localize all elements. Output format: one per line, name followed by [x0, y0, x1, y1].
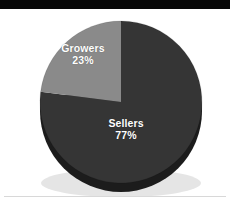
- pie-label-growers: Growers 23%: [47, 42, 119, 67]
- pie-chart-figure: Growers 23% Sellers 77%: [0, 0, 230, 204]
- bottom-divider-rule: [4, 196, 226, 197]
- top-black-band: [0, 0, 230, 9]
- pie-label-sellers: Sellers 77%: [90, 117, 162, 142]
- chart-plot-area: Growers 23% Sellers 77%: [0, 9, 230, 196]
- pie-label-growers-value: 23%: [47, 54, 119, 66]
- pie-label-sellers-name: Sellers: [90, 117, 162, 129]
- pie-chart-graphic: [0, 9, 230, 196]
- pie-label-growers-name: Growers: [47, 42, 119, 54]
- pie-label-sellers-value: 77%: [90, 129, 162, 141]
